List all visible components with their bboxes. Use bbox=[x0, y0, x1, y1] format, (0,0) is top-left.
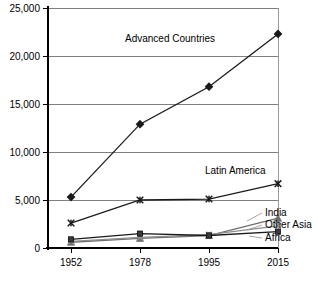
chart-container: 25,000 20,000 15,000 10,000 5,000 0 1952… bbox=[0, 0, 318, 281]
data-point-africa-1995 bbox=[206, 233, 211, 238]
y-axis-ticks bbox=[43, 8, 48, 248]
x-tick-label-1995: 1995 bbox=[198, 257, 221, 268]
y-tick-label-15000: 15,000 bbox=[9, 99, 40, 110]
x-axis-ticks bbox=[71, 248, 278, 253]
series-label-other-asia: Other Asia bbox=[265, 219, 312, 230]
series-label-advanced-countries: Advanced Countries bbox=[125, 33, 215, 44]
series-label-latin-america: Latin America bbox=[205, 165, 266, 176]
x-tick-label-1978: 1978 bbox=[129, 257, 152, 268]
data-point-africa-1952 bbox=[68, 237, 73, 242]
y-tick-label-10000: 10,000 bbox=[9, 147, 40, 158]
y-tick-label-5000: 5,000 bbox=[15, 195, 40, 206]
data-point-africa-1978 bbox=[137, 231, 142, 236]
series-label-india: India bbox=[265, 207, 287, 218]
y-tick-label-20000: 20,000 bbox=[9, 51, 40, 62]
x-tick-label-2015: 2015 bbox=[267, 257, 290, 268]
plot-area-background bbox=[48, 8, 278, 248]
series-label-africa: Africa bbox=[265, 232, 291, 243]
x-tick-label-1952: 1952 bbox=[60, 257, 83, 268]
x-axis-tick-labels: 1952 1978 1995 2015 bbox=[60, 257, 290, 268]
line-chart: 25,000 20,000 15,000 10,000 5,000 0 1952… bbox=[0, 0, 318, 281]
y-tick-label-25000: 25,000 bbox=[9, 3, 40, 14]
y-tick-label-0: 0 bbox=[34, 243, 40, 254]
y-axis-tick-labels: 25,000 20,000 15,000 10,000 5,000 0 bbox=[9, 3, 40, 254]
